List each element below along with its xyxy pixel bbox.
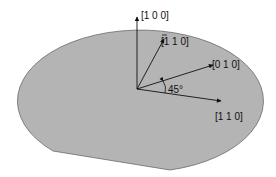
label-010: [0 1 0] [212,59,240,70]
diagram-canvas: [1 0 0] [1 1 0] [0 1 0] [1 1 0] 45° [0,0,276,177]
wafer-shape [17,30,263,170]
label-bar110: [1 1 0] [161,36,189,47]
label-110: [1 1 0] [215,111,243,122]
angle-label: 45° [168,84,183,95]
wafer-diagram: [1 0 0] [1 1 0] [0 1 0] [1 1 0] 45° [0,0,276,177]
label-100: [1 0 0] [141,10,169,21]
